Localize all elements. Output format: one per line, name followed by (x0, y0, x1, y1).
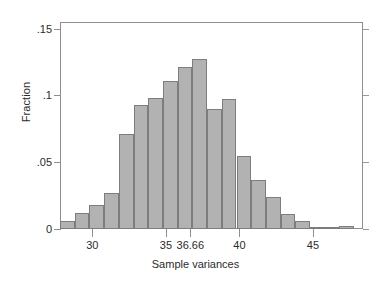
x-axis-tick-mark (239, 229, 240, 237)
y-axis-tick-label: .05 (2, 157, 52, 168)
y-axis-tick-label: 0 (2, 224, 52, 235)
histogram-bar (104, 193, 119, 229)
histogram-bar (266, 197, 281, 229)
histogram-bar (119, 134, 134, 229)
y-axis-tick-mark (54, 29, 61, 30)
histogram-bar (339, 226, 354, 229)
histogram-bar (148, 98, 163, 229)
x-axis-tick-mark (313, 229, 314, 237)
bars-layer (60, 22, 363, 229)
x-axis-tick-label: 45 (307, 239, 319, 251)
y-axis-tick-mark-right (363, 29, 369, 30)
histogram-bar (237, 156, 252, 229)
histogram-bar (222, 99, 237, 229)
histogram-bar (134, 105, 149, 229)
y-axis-tick-mark-right (363, 162, 369, 163)
x-axis-tick-mark (190, 229, 191, 237)
histogram-bar (192, 59, 207, 229)
y-axis-tick-mark (54, 95, 61, 96)
y-axis-title: Fraction (20, 57, 32, 147)
y-axis-tick-mark-right (363, 95, 369, 96)
x-axis-tick-label: 30 (86, 239, 98, 251)
x-axis-title: Sample variances (0, 258, 391, 270)
y-axis-tick-mark (54, 162, 61, 163)
histogram-bar (251, 180, 266, 229)
histogram-bar (207, 109, 222, 229)
x-axis-tick-label: 36.66 (177, 239, 205, 251)
x-axis-tick-mark (166, 229, 167, 237)
histogram-bar (163, 81, 178, 229)
x-axis-tick-label: 40 (233, 239, 245, 251)
y-axis-tick-label: .15 (2, 24, 52, 35)
histogram-bar (281, 214, 296, 229)
histogram-bar (89, 205, 104, 229)
histogram-bar (60, 221, 75, 229)
histogram-bar (295, 221, 310, 229)
x-axis-tick-label: 35 (160, 239, 172, 251)
histogram-chart: Fraction 0.05.1.15 303536.664045 Sample … (0, 0, 391, 284)
y-axis-tick-mark (54, 229, 61, 230)
y-axis-tick-mark-right (363, 229, 369, 230)
x-axis-tick-mark (92, 229, 93, 237)
histogram-bar (75, 213, 90, 229)
y-axis-tick-label: .1 (2, 90, 52, 101)
histogram-bar (178, 67, 193, 229)
histogram-bar (325, 227, 340, 229)
